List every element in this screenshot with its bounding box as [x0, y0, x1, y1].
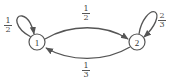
denominator: 2	[81, 14, 91, 22]
edge-label-2-to-2: 2 3	[157, 12, 167, 29]
numerator: 1	[3, 17, 13, 25]
numerator: 2	[157, 12, 167, 20]
edge-label-1-to-1: 1 2	[3, 17, 13, 34]
numerator: 1	[81, 62, 91, 70]
numerator: 1	[81, 5, 91, 13]
edge-1-to-1	[17, 16, 34, 37]
state-label-1: 1	[35, 38, 40, 48]
edge-1-to-2	[45, 28, 128, 39]
denominator: 3	[81, 71, 91, 79]
edge-label-2-to-1: 1 3	[81, 62, 91, 79]
state-label-2: 2	[135, 38, 140, 48]
denominator: 2	[3, 26, 13, 34]
denominator: 3	[157, 21, 167, 29]
edge-label-1-to-2: 1 2	[81, 5, 91, 22]
edge-2-to-1	[46, 47, 130, 58]
state-node-1: 1	[29, 34, 45, 50]
edge-2-to-2	[139, 12, 157, 37]
state-node-2: 2	[129, 34, 145, 50]
markov-chain-diagram: 1 2 1 2 1 2 2 3 1 3	[0, 0, 170, 84]
